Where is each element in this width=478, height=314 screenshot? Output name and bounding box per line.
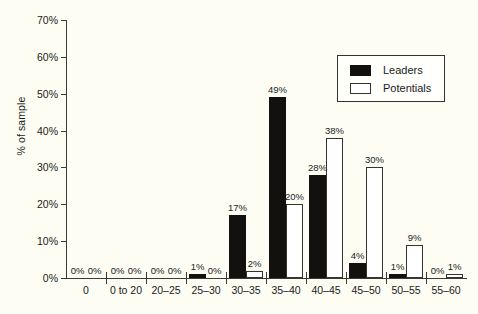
bar-value-label: 0%	[431, 265, 445, 276]
bar-value-label: 38%	[325, 125, 344, 136]
bar-potentials-55–60	[446, 274, 463, 278]
bar-potentials-35–40	[286, 204, 303, 278]
x-tick-label-30–35: 30–35	[231, 284, 260, 296]
bar-value-label: 20%	[285, 191, 304, 202]
legend-swatch-potentials	[350, 83, 371, 94]
x-tick-label-40–45: 40–45	[311, 284, 340, 296]
bar-value-label: 0%	[71, 265, 85, 276]
bar-value-label: 1%	[448, 261, 462, 272]
bar-value-label: 28%	[308, 162, 327, 173]
bar-leaders-45–50	[349, 263, 366, 278]
bar-value-label: 49%	[268, 84, 287, 95]
bar-value-label: 1%	[191, 261, 205, 272]
x-tick-label-45–50: 45–50	[351, 284, 380, 296]
x-tick-label-0: 0	[83, 284, 89, 296]
x-tick-label-50–55: 50–55	[391, 284, 420, 296]
bar-chart: % of sample 0%10%20%30%40%50%60%70% 0%0%…	[0, 0, 478, 314]
x-tick-separator	[106, 272, 107, 284]
bar-potentials-50–55	[406, 245, 423, 278]
bar-potentials-45–50	[366, 167, 383, 278]
x-tick-label-55–60: 55–60	[431, 284, 460, 296]
bar-potentials-40–45	[326, 138, 343, 278]
bar-value-label: 0%	[111, 265, 125, 276]
x-tick-separator	[386, 272, 387, 284]
bar-value-label: 2%	[248, 258, 262, 269]
chart-legend: Leaders Potentials	[337, 55, 445, 102]
x-tick-separator	[146, 272, 147, 284]
bar-value-label: 0%	[168, 265, 182, 276]
legend-swatch-leaders	[350, 65, 371, 76]
bar-leaders-50–55	[389, 274, 406, 278]
x-tick-separator	[426, 272, 427, 284]
y-tick-label: 70%	[18, 14, 58, 26]
bar-leaders-40–45	[309, 175, 326, 278]
legend-item-leaders: Leaders	[350, 64, 423, 76]
bar-value-label: 30%	[365, 154, 384, 165]
x-tick-separator	[346, 272, 347, 284]
bar-leaders-25–30	[189, 274, 206, 278]
y-tick-label: 40%	[18, 125, 58, 137]
legend-label-leaders: Leaders	[383, 64, 423, 76]
bar-value-label: 0%	[88, 265, 102, 276]
x-tick-separator	[306, 272, 307, 284]
bar-potentials-30–35	[246, 271, 263, 278]
x-tick-separator	[186, 272, 187, 284]
y-tick-label: 10%	[18, 235, 58, 247]
bar-value-label: 17%	[228, 202, 247, 213]
bar-value-label: 0%	[208, 265, 222, 276]
bar-value-label: 0%	[128, 265, 142, 276]
x-tick-label-25–30: 25–30	[191, 284, 220, 296]
bar-leaders-35–40	[269, 97, 286, 278]
x-tick-separator	[266, 272, 267, 284]
legend-item-potentials: Potentials	[350, 82, 431, 94]
x-tick-label-20–25: 20–25	[151, 284, 180, 296]
bar-value-label: 9%	[408, 232, 422, 243]
bar-leaders-30–35	[229, 215, 246, 278]
y-tick-label: 50%	[18, 88, 58, 100]
x-tick-label-0 to 20: 0 to 20	[110, 284, 142, 296]
x-tick-label-35–40: 35–40	[271, 284, 300, 296]
y-tick-label: 20%	[18, 198, 58, 210]
x-tick-separator	[226, 272, 227, 284]
bar-value-label: 0%	[151, 265, 165, 276]
bar-value-label: 1%	[391, 261, 405, 272]
legend-label-potentials: Potentials	[383, 82, 431, 94]
y-tick-label: 60%	[18, 51, 58, 63]
bar-value-label: 4%	[351, 250, 365, 261]
y-tick-label: 0%	[18, 272, 58, 284]
y-tick-label: 30%	[18, 161, 58, 173]
